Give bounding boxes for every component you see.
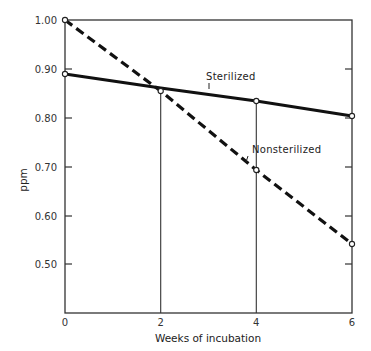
x-tick-4: 4 — [253, 317, 259, 328]
marker-sterilized-0 — [62, 71, 67, 76]
line-chart: 1.00 0.90 0.80 0.70 0.60 0.50 ppm 0 2 4 … — [0, 0, 371, 351]
y-tick-0.70: 0.70 — [35, 162, 57, 173]
label-nonsterilized: Nonsterilized — [252, 144, 321, 155]
x-tick-labels: 0 2 4 6 — [62, 317, 355, 328]
y-tick-0.80: 0.80 — [35, 113, 57, 124]
marker-nonsterilized-2 — [158, 88, 163, 93]
x-axis-title: Weeks of incubation — [155, 332, 261, 344]
marker-nonsterilized-6 — [349, 241, 354, 246]
plot-frame — [65, 20, 352, 313]
x-tick-6: 6 — [349, 317, 355, 328]
label-sterilized: Sterilized — [206, 71, 256, 82]
y-tick-labels: 1.00 0.90 0.80 0.70 0.60 0.50 — [35, 15, 57, 270]
marker-sterilized-4 — [254, 98, 259, 103]
drop-lines — [161, 91, 257, 313]
series-nonsterilized-line — [65, 20, 352, 244]
marker-nonsterilized-0 — [62, 17, 67, 22]
y-tick-0.90: 0.90 — [35, 64, 57, 75]
y-axis-title: ppm — [17, 168, 29, 192]
x-tick-0: 0 — [62, 317, 68, 328]
y-tick-1.00: 1.00 — [35, 15, 57, 26]
marker-nonsterilized-4 — [254, 167, 259, 172]
y-ticks-right — [345, 69, 352, 264]
marker-sterilized-6 — [349, 113, 354, 118]
y-tick-0.50: 0.50 — [35, 259, 57, 270]
y-tick-0.60: 0.60 — [35, 211, 57, 222]
x-tick-2: 2 — [158, 317, 164, 328]
y-ticks-left — [65, 69, 72, 264]
